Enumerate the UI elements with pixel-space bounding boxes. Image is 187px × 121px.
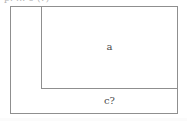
region-label-a: a [41, 41, 178, 53]
region-label-c: c? [41, 95, 178, 107]
figure-root: p. ... e (?) a c? [0, 0, 187, 121]
bottom-edge-band [0, 118, 187, 121]
diagram-canvas: a c? [0, 0, 187, 121]
